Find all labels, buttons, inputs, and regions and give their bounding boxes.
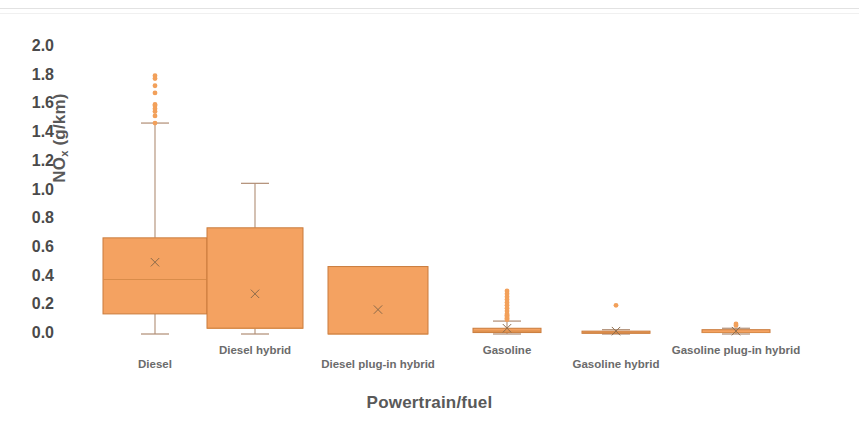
outlier-point: [614, 303, 619, 308]
box-rect: [207, 228, 303, 328]
outlier-point: [734, 323, 739, 328]
outlier-point: [153, 83, 158, 88]
box-group: [207, 183, 303, 334]
box-group: [328, 267, 428, 334]
box-rect: [328, 267, 428, 334]
boxplot-plot-area: [0, 0, 859, 422]
outlier-point: [153, 91, 158, 96]
box-group: [702, 322, 770, 336]
box-group: [103, 73, 207, 334]
outlier-point: [153, 109, 158, 114]
chart-container: NOx (g/km) Powertrain/fuel 2.01.81.61.41…: [0, 0, 859, 422]
box-group: [473, 289, 541, 334]
box-group: [582, 303, 650, 335]
box-rect: [103, 238, 207, 314]
outlier-point: [505, 317, 510, 322]
outlier-point: [153, 113, 158, 118]
outlier-point: [153, 76, 158, 81]
outlier-point: [153, 121, 158, 126]
